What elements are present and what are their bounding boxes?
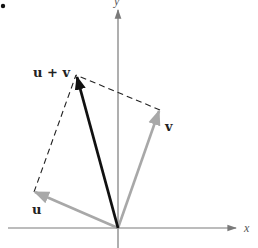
x-axis-label: x [243,221,250,235]
vector-sum-label: u + v [33,65,70,80]
vector-v-label: v [164,119,173,134]
parallelogram-dashed-sides [34,75,160,192]
vector-u-label: u [32,202,41,217]
vector-diagram: x y u v u + v [0,0,258,248]
bullet-marker [1,4,5,8]
vector-sum [77,77,118,228]
vector-u [35,192,118,228]
vector-v [118,111,159,228]
y-axis-label: y [113,0,120,8]
